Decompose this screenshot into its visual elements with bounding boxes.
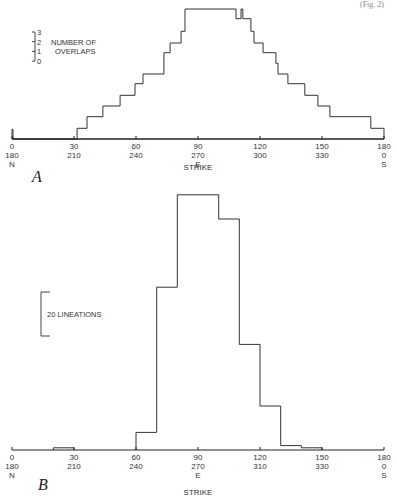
histogram-outline — [53, 195, 322, 450]
scale-tick-label: 1 — [37, 47, 41, 56]
x-ticks-b: 0180N302106024090270E1203101503301800S — [5, 447, 391, 480]
overlap-step-line — [12, 9, 384, 139]
x-tick-label-reverse: 210 — [67, 462, 81, 471]
x-tick-label: 90 — [194, 453, 203, 462]
x-tick-label: 150 — [315, 142, 329, 151]
x-tick-label-reverse: 0 — [382, 462, 387, 471]
x-tick-direction: N — [9, 471, 15, 480]
x-tick-label: 150 — [315, 453, 329, 462]
scale-tick-label: 3 — [37, 28, 41, 37]
x-tick-label: 0 — [10, 453, 15, 462]
x-tick-label: 180 — [377, 142, 391, 151]
x-tick-label: 60 — [132, 142, 141, 151]
scale-label: OVERLAPS — [55, 47, 95, 56]
x-tick-label-reverse: 240 — [129, 462, 143, 471]
x-tick-label: 90 — [194, 142, 203, 151]
chart-a: 3210NUMBER OFOVERLAPS 0180N3021060240902… — [5, 9, 391, 185]
x-tick-label-reverse: 180 — [5, 151, 19, 160]
x-tick-label: 60 — [132, 453, 141, 462]
overlap-scale-bar: 3210NUMBER OFOVERLAPS — [32, 28, 96, 66]
x-tick-label-reverse: 300 — [253, 151, 267, 160]
x-tick-label-reverse: 240 — [129, 151, 143, 160]
x-tick-direction: S — [381, 471, 386, 480]
panel-label-b: B — [38, 476, 48, 493]
x-tick-label: 120 — [253, 453, 267, 462]
x-axis-title-a: STRIKE — [184, 163, 213, 172]
x-tick-label: 30 — [70, 453, 79, 462]
x-tick-label-reverse: 330 — [315, 151, 329, 160]
lineation-scale-bar: 20 LINEATIONS — [41, 292, 101, 336]
scale-label: NUMBER OF — [51, 38, 96, 47]
x-tick-label-reverse: 330 — [315, 462, 329, 471]
scale-bar-label: 20 LINEATIONS — [47, 310, 101, 319]
chart-b: 20 LINEATIONS 0180N302106024090270E12031… — [5, 195, 391, 497]
scale-tick-label: 0 — [37, 57, 41, 66]
x-tick-label: 0 — [10, 142, 15, 151]
panel-label-a: A — [31, 168, 42, 185]
x-tick-label: 30 — [70, 142, 79, 151]
x-tick-label: 120 — [253, 142, 267, 151]
scale-tick-label: 2 — [37, 38, 41, 47]
x-tick-label-reverse: 310 — [253, 462, 267, 471]
x-tick-label-reverse: 180 — [5, 462, 19, 471]
x-tick-label-reverse: 0 — [382, 151, 387, 160]
x-tick-direction: S — [381, 160, 386, 169]
figure: (Fig. 2) 3210NUMBER OFOVERLAPS 0180N3021… — [0, 0, 397, 499]
x-tick-label: 180 — [377, 453, 391, 462]
x-tick-direction: E — [195, 471, 200, 480]
x-tick-label-reverse: 210 — [67, 151, 81, 160]
x-tick-label-reverse: 270 — [191, 151, 205, 160]
x-axis-title-b: STRIKE — [184, 488, 213, 497]
corner-text: (Fig. 2) — [360, 0, 384, 9]
x-tick-direction: N — [9, 160, 15, 169]
x-tick-label-reverse: 270 — [191, 462, 205, 471]
